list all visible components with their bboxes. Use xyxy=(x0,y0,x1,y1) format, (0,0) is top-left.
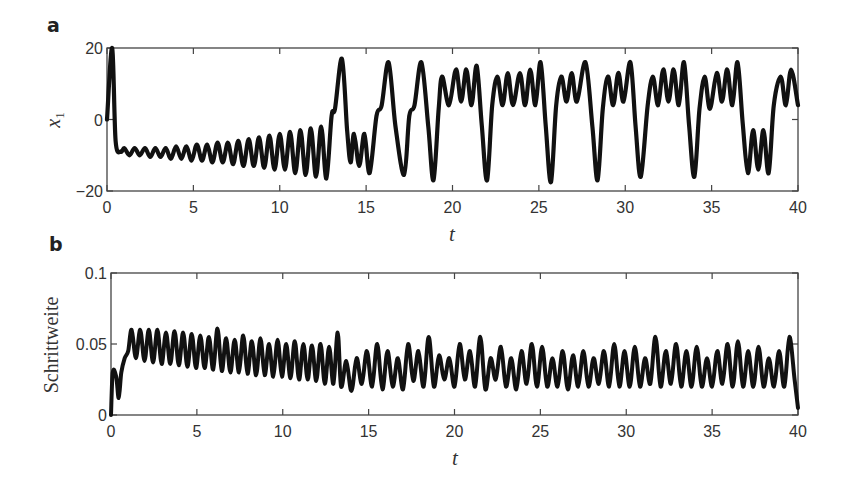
x-tick-label: 20 xyxy=(444,199,462,216)
x-tick-label: 35 xyxy=(703,199,721,216)
x-tick-label: 0 xyxy=(103,199,112,216)
x1-trace xyxy=(107,48,798,182)
y-tick-label: 0.1 xyxy=(85,265,107,282)
x-tick-label: 10 xyxy=(271,199,289,216)
panel-a: 0510152025303540−20020 x1 t xyxy=(42,40,807,246)
chart-canvas: 0510152025303540−20020 x1 t 051015202530… xyxy=(0,0,848,486)
y-tick-label: −20 xyxy=(76,183,103,200)
x-tick-label: 15 xyxy=(360,423,378,440)
panel-b: 051015202530354000.050.1 Schrittweite t xyxy=(40,265,807,470)
x-tick-label: 5 xyxy=(189,199,198,216)
x-axis-label-b: t xyxy=(452,446,459,470)
x-tick-label: 40 xyxy=(789,199,807,216)
y-tick-label: 0.05 xyxy=(76,336,107,353)
x-tick-label: 30 xyxy=(616,199,634,216)
y-axis-label-a: x1 xyxy=(42,112,67,128)
x-axis-label-a: t xyxy=(449,222,456,246)
x-tick-label: 25 xyxy=(531,423,549,440)
x-tick-label: 30 xyxy=(617,423,635,440)
y-tick-label: 0 xyxy=(98,407,107,424)
x-tick-label: 40 xyxy=(789,423,807,440)
x-tick-label: 5 xyxy=(192,423,201,440)
x-tick-label: 20 xyxy=(446,423,464,440)
x-tick-label: 25 xyxy=(530,199,548,216)
x-tick-label: 35 xyxy=(703,423,721,440)
y-tick-label: 20 xyxy=(85,40,103,57)
x-tick-label: 0 xyxy=(107,423,116,440)
y-tick-label: 0 xyxy=(94,112,103,129)
x-tick-label: 15 xyxy=(357,199,375,216)
step-size-trace xyxy=(111,328,798,415)
x-tick-label: 10 xyxy=(274,423,292,440)
y-axis-label-b: Schrittweite xyxy=(40,297,62,394)
